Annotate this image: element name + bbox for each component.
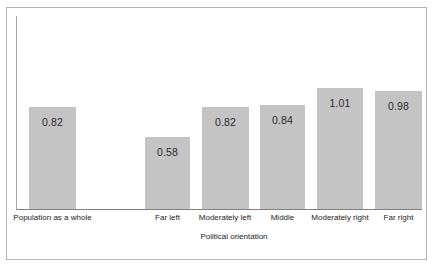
x-axis-line	[16, 209, 422, 210]
bar-far-right: 0.98	[375, 91, 422, 209]
bar-moderately-left: 0.82	[202, 107, 249, 209]
bar-middle: 0.84	[260, 105, 305, 209]
x-tick-label-far-left: Far left	[140, 212, 195, 224]
bar-value-label: 1.01	[317, 97, 363, 109]
bar-chart-figure: 0.82 0.58 0.82 0.84 1.01 0.98 Population…	[0, 0, 438, 269]
plot-area: 0.82 0.58 0.82 0.84 1.01 0.98 Population…	[0, 0, 438, 269]
x-tick-label-middle: Middle	[255, 212, 310, 224]
bar-value-label: 0.58	[145, 146, 190, 158]
bar-value-label: 0.84	[260, 114, 305, 126]
bar-value-label: 0.98	[375, 100, 422, 112]
bar-moderately-right: 1.01	[317, 88, 363, 209]
x-tick-label-far-right: Far right	[372, 212, 425, 224]
x-tick-label-population-as-a-whole: Population as a whole	[0, 212, 105, 224]
y-axis-line	[16, 16, 17, 210]
x-axis-title: Political orientation	[172, 231, 296, 243]
bar-value-label: 0.82	[202, 116, 249, 128]
bar-population-as-a-whole: 0.82	[29, 107, 76, 209]
bar-far-left: 0.58	[145, 137, 190, 209]
x-tick-label-moderately-right: Moderately right	[308, 212, 372, 224]
bar-value-label: 0.82	[29, 116, 76, 128]
x-tick-label-moderately-left: Moderately left	[195, 212, 255, 224]
